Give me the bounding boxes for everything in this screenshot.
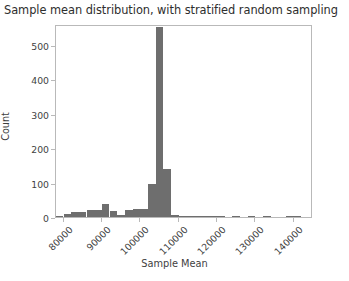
histogram-bar <box>209 216 216 217</box>
y-tick-mark <box>51 115 55 116</box>
histogram-bar <box>87 210 94 217</box>
x-tick-mark <box>63 218 64 222</box>
histogram-bar <box>79 212 86 217</box>
histogram-bar <box>171 215 178 217</box>
histogram-bar <box>117 215 124 217</box>
x-axis-label: Sample Mean <box>0 258 349 269</box>
y-tick-label: 100 <box>9 178 49 189</box>
y-tick-label: 400 <box>9 75 49 86</box>
x-tick-mark <box>216 218 217 222</box>
histogram-bar <box>263 216 270 217</box>
plot-area <box>55 25 312 218</box>
y-tick-label: 500 <box>9 40 49 51</box>
histogram-bar <box>294 216 301 217</box>
histogram-bar <box>202 216 209 217</box>
histogram-bar <box>133 209 140 217</box>
x-tick-mark <box>254 218 255 222</box>
y-tick-label: 200 <box>9 144 49 155</box>
x-tick-mark <box>139 218 140 222</box>
histogram-bar <box>94 210 101 217</box>
y-tick-mark <box>51 80 55 81</box>
histogram-bar <box>286 216 293 217</box>
histogram-bar <box>163 169 170 217</box>
histogram-bar <box>64 214 71 217</box>
histogram-bar <box>248 216 255 217</box>
x-tick-mark <box>178 218 179 222</box>
y-tick-mark <box>51 46 55 47</box>
x-tick-mark <box>293 218 294 222</box>
histogram-bar <box>125 210 132 217</box>
histogram-bar <box>179 216 186 217</box>
histogram-bar <box>56 216 63 217</box>
y-tick-mark <box>51 184 55 185</box>
histogram-bar <box>102 204 109 217</box>
y-tick-mark <box>51 218 55 219</box>
histogram-bars <box>56 26 311 217</box>
histogram-bar <box>194 216 201 217</box>
histogram-bar <box>148 184 155 217</box>
histogram-bar <box>71 212 78 217</box>
histogram-bar <box>232 216 239 217</box>
histogram-bar <box>217 216 224 217</box>
histogram-figure: Sample mean distribution, with stratifie… <box>0 0 349 281</box>
chart-title: Sample mean distribution, with stratifie… <box>4 3 345 17</box>
y-tick-label: 300 <box>9 109 49 120</box>
histogram-bar <box>140 209 147 217</box>
y-tick-mark <box>51 149 55 150</box>
x-tick-mark <box>101 218 102 222</box>
histogram-bar <box>110 211 117 217</box>
histogram-bar <box>156 27 163 217</box>
y-tick-label: 0 <box>9 213 49 224</box>
histogram-bar <box>186 216 193 217</box>
